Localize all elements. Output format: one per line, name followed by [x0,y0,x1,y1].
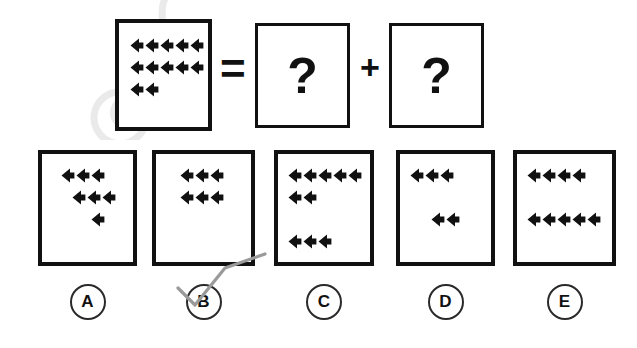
answer-label-e[interactable]: E [547,284,583,320]
answer-box-a[interactable] [38,150,137,266]
speaker-icon [318,234,332,249]
shape-row [130,78,208,100]
shape-row [52,186,133,208]
speaker-icon [102,190,116,205]
answer-shapes-grid-c [278,154,370,262]
speaker-icon [303,168,317,183]
answer-box-e[interactable] [513,150,616,266]
speaker-icon [572,168,586,183]
speaker-icon [91,168,105,183]
speaker-icon [180,168,194,183]
shape-row [288,230,370,252]
speaker-icon [195,168,209,183]
speaker-icon [303,190,317,205]
answer-shapes-grid-b [156,154,251,262]
shape-row [527,164,612,186]
equals-operator: = [220,47,246,91]
answer-options-row: ABCDE [0,150,637,348]
shape-row [410,164,491,186]
speaker-icon [160,60,174,75]
shape-row [288,164,370,186]
speaker-icon [425,168,439,183]
second-unknown-box: ? [389,23,484,128]
answer-label-a[interactable]: A [70,284,106,320]
speaker-icon [410,168,424,183]
speaker-icon [145,38,159,53]
answer-box-c[interactable] [274,150,374,266]
shape-row [166,164,251,186]
shape-row [52,208,133,230]
prompt-shapes-grid [119,23,208,127]
question-mark-1: ? [258,51,347,101]
answer-label-c[interactable]: C [306,284,342,320]
speaker-icon [542,168,556,183]
speaker-icon [318,168,332,183]
shape-row [52,164,133,186]
speaker-icon [175,60,189,75]
shape-row [527,208,612,230]
answer-shapes-grid-d [400,154,491,262]
shape-row [130,56,208,78]
speaker-icon [333,168,347,183]
speaker-icon [145,60,159,75]
speaker-icon [190,60,204,75]
speaker-icon [91,212,105,227]
shape-row [166,186,251,208]
speaker-icon [288,234,302,249]
shape-row [410,208,491,230]
speaker-icon [175,38,189,53]
speaker-icon [210,190,224,205]
speaker-icon [288,190,302,205]
speaker-icon [160,38,174,53]
speaker-icon [288,168,302,183]
answer-shapes-grid-e [517,154,612,262]
speaker-icon [210,168,224,183]
speaker-icon [130,60,144,75]
shape-row [130,34,208,56]
plus-operator: + [360,50,380,84]
answer-label-b[interactable]: B [186,284,222,320]
shape-row [288,186,370,208]
speaker-icon [130,38,144,53]
speaker-icon [61,168,75,183]
speaker-icon [348,168,362,183]
speaker-icon [557,212,571,227]
answer-box-b[interactable] [152,150,255,266]
speaker-icon [527,168,541,183]
speaker-icon [527,212,541,227]
shape-row [288,208,370,230]
speaker-icon [303,234,317,249]
speaker-icon [87,190,101,205]
first-unknown-box: ? [255,23,350,128]
shape-row [527,186,612,208]
speaker-icon [76,168,90,183]
speaker-icon [130,82,144,97]
speaker-icon [145,82,159,97]
answer-label-d[interactable]: D [428,284,464,320]
speaker-icon [72,190,86,205]
speaker-icon [180,190,194,205]
speaker-icon [572,212,586,227]
speaker-icon [440,168,454,183]
prompt-quantity-box [115,19,212,131]
shape-row [410,186,491,208]
speaker-icon [542,212,556,227]
speaker-icon [190,38,204,53]
answer-shapes-grid-a [42,154,133,262]
speaker-icon [557,168,571,183]
speaker-icon [195,190,209,205]
speaker-icon [587,212,601,227]
equation-row: = ? + ? [0,0,637,140]
speaker-icon [431,212,445,227]
answer-box-d[interactable] [396,150,495,266]
question-mark-2: ? [392,51,481,101]
speaker-icon [446,212,460,227]
